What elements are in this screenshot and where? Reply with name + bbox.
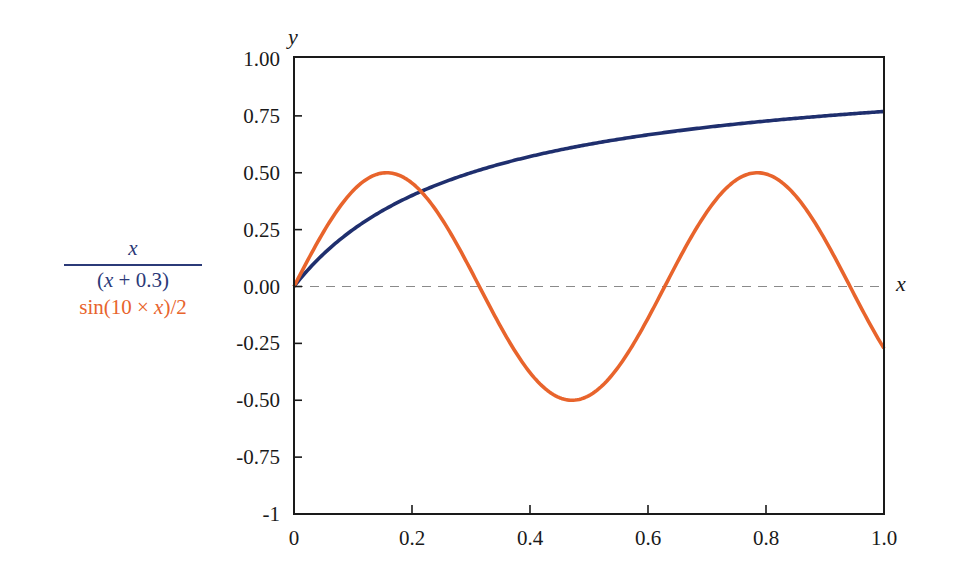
y-tick-label: -0.25 [236, 331, 280, 355]
y-axis-ticks: 1.000.750.500.250.00-0.25-0.50-0.75-1 [236, 47, 302, 526]
y-tick-label: 0.50 [243, 161, 280, 185]
x-tick-label: 0.4 [517, 526, 544, 550]
y-axis-label: y [286, 24, 298, 49]
series-line-1 [294, 112, 884, 287]
y-tick-label: -1 [263, 502, 281, 526]
y-tick-label: 0.25 [243, 218, 280, 242]
y-tick-label: -0.75 [236, 445, 280, 469]
y-tick-label: 0.75 [243, 104, 280, 128]
x-tick-label: 0.6 [635, 526, 661, 550]
x-axis-ticks: 00.20.40.60.81.0 [289, 505, 897, 550]
x-tick-label: 0.8 [753, 526, 779, 550]
legend-series-2: sin(10 × x)/2 [28, 297, 238, 318]
plot-frame [294, 57, 884, 514]
x-axis-label: x [895, 271, 906, 296]
y-tick-label: -0.50 [236, 388, 280, 412]
x-tick-label: 0.2 [399, 526, 425, 550]
plot-area [294, 57, 884, 514]
legend-series-1-denominator: (x + 0.3) [64, 266, 202, 291]
y-tick-label: 1.00 [243, 47, 280, 71]
legend-series-1-numerator: x [64, 238, 202, 264]
legend: x (x + 0.3) sin(10 × x)/2 [28, 238, 238, 318]
y-tick-label: 0.00 [243, 275, 280, 299]
legend-series-1: x (x + 0.3) [64, 238, 202, 291]
x-tick-label: 0 [289, 526, 300, 550]
x-tick-label: 1.0 [871, 526, 897, 550]
